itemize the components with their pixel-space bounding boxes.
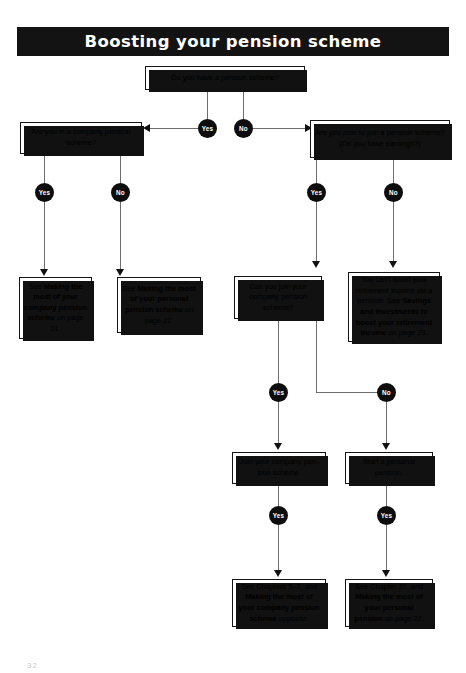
decision-node-join-no-label: No (382, 389, 391, 396)
result-box-cant-boost: You can't boost your retirement income v… (348, 272, 440, 342)
connector-able-no-stem (393, 158, 394, 183)
decision-node-able-no-label: No (389, 189, 398, 196)
decision-node-able-no: No (384, 183, 403, 202)
decision-box-have-pension-text: Do you have a pension scheme? (171, 73, 279, 84)
connector-to-result-cant-boost (393, 202, 394, 264)
arrow-down-to-result-company (40, 269, 48, 276)
connector-to-result-company (44, 202, 45, 272)
decision-box-in-company-scheme-text: Are you in a company pension scheme? (25, 127, 137, 148)
decision-node-company-no-label: No (116, 189, 125, 196)
connector-to-chapter-10 (386, 525, 387, 573)
decision-node-join-no: No (377, 383, 396, 402)
decision-node-startpen-yes: Yes (377, 506, 396, 525)
page-title: Boosting your pension scheme (17, 27, 449, 56)
arrow-down-to-result-personal (116, 269, 124, 276)
action-box-start-personal-pension: Start a personal pension. (345, 452, 433, 484)
arrow-down-to-start-pension (382, 443, 390, 450)
decision-node-top-yes-label: Yes (202, 125, 213, 132)
result-box-chapter-10-text: See Chapter 10, and Making the most of y… (350, 582, 428, 624)
result-box-cant-boost-text: You can't boost your retirement income v… (353, 275, 435, 338)
result-box-personal-scheme: See Making the most of your personal pen… (117, 277, 201, 333)
decision-node-join-yes-label: Yes (273, 389, 284, 396)
flowchart-page: Boosting your pension scheme Do you have… (0, 0, 466, 673)
decision-node-joinscheme-yes-label: Yes (273, 512, 284, 519)
decision-node-top-no: No (234, 119, 253, 138)
connector-company-no-stem (120, 154, 121, 183)
connector-join-no-down (316, 319, 317, 393)
arrow-down-to-result-cant-boost (389, 261, 397, 268)
action-box-join-company-scheme: Join your company pen-sion scheme. (232, 452, 326, 484)
page-title-banner: Boosting your pension scheme (17, 27, 449, 56)
decision-box-in-company-scheme: Are you in a company pension scheme? (20, 122, 142, 154)
connector-company-yes-stem (44, 154, 45, 183)
decision-node-company-no: No (111, 183, 130, 202)
arrow-down-to-chapters-5-7 (274, 570, 282, 577)
connector-to-chapters-5-7 (278, 525, 279, 573)
result-box-personal-scheme-text: See Making the most of your personal pen… (122, 284, 196, 326)
connector-join-no-across (316, 392, 386, 393)
decision-node-company-yes-label: Yes (39, 189, 50, 196)
result-box-chapter-10: See Chapter 10, and Making the most of y… (345, 579, 433, 627)
decision-box-have-pension: Do you have a pension scheme? (145, 66, 305, 90)
decision-box-can-you-join: Can you join your company pension scheme… (234, 276, 322, 319)
connector-to-join-scheme (278, 402, 279, 446)
connector-join-yes-stem (278, 319, 279, 383)
arrow-down-to-join-scheme (274, 443, 282, 450)
connector-startpen-yes-stem (386, 484, 387, 506)
connector-joinscheme-yes-stem (278, 484, 279, 506)
decision-node-company-yes: Yes (35, 183, 54, 202)
decision-node-able-yes-label: Yes (311, 189, 322, 196)
decision-node-startpen-yes-label: Yes (381, 512, 392, 519)
arrow-down-to-can-you-join (312, 261, 320, 268)
decision-box-able-to-join: Are you able to join a pension scheme? (… (310, 120, 450, 158)
page-number: 32 (27, 661, 38, 670)
result-box-company-scheme: See Making the most of your company pens… (19, 277, 92, 339)
arrow-left-to-company-box (143, 124, 150, 132)
action-box-start-personal-pension-text: Start a personal pension. (350, 457, 428, 478)
arrow-down-to-chapter-10 (382, 570, 390, 577)
decision-node-top-no-label: No (239, 125, 248, 132)
action-box-join-company-scheme-text: Join your company pen-sion scheme. (237, 457, 321, 478)
decision-node-joinscheme-yes: Yes (269, 506, 288, 525)
decision-node-join-yes: Yes (269, 383, 288, 402)
decision-node-able-yes: Yes (307, 183, 326, 202)
decision-box-can-you-join-text: Can you join your company pension scheme… (239, 282, 317, 314)
result-box-chapters-5-7: See Chapters 5–7, and Making the most of… (232, 579, 326, 627)
connector-to-result-personal (120, 202, 121, 272)
result-box-chapters-5-7-text: See Chapters 5–7, and Making the most of… (237, 582, 321, 624)
decision-box-able-to-join-text: Are you able to join a pension scheme? (… (315, 128, 445, 149)
connector-able-yes-stem (316, 158, 317, 183)
connector-to-can-you-join (316, 202, 317, 264)
decision-node-top-yes: Yes (198, 119, 217, 138)
result-box-company-scheme-text: See Making the most of your company pens… (24, 282, 87, 335)
connector-to-start-pension (386, 402, 387, 446)
